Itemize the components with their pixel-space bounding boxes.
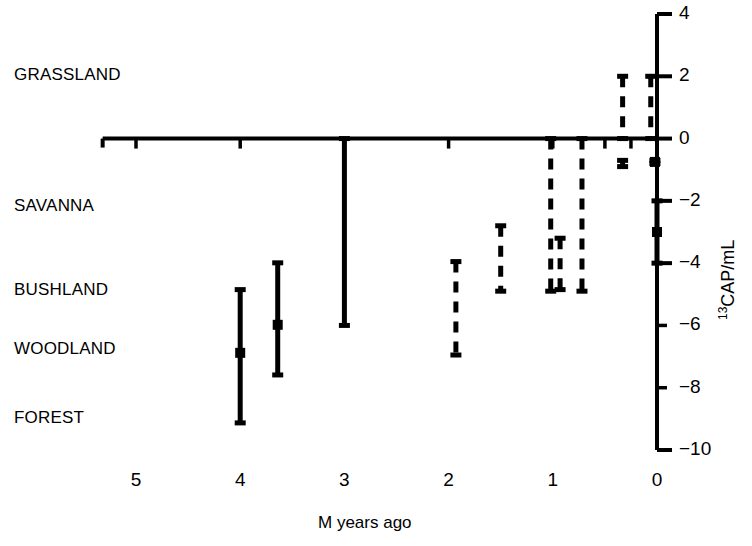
dashed-interval <box>617 160 628 166</box>
y-axis-tick-label: −2 <box>679 189 701 211</box>
solid-interval <box>235 290 246 423</box>
x-axis-tick-label: 1 <box>533 469 573 491</box>
dashed-interval <box>576 139 587 292</box>
y-axis-tick-label: 0 <box>679 127 690 149</box>
y-axis-tick-label: −8 <box>679 376 701 398</box>
solid-interval <box>649 157 660 167</box>
biome-label-forest: FOREST <box>14 408 84 428</box>
y-axis-title-superscript: 13 <box>716 307 730 320</box>
biome-label-savanna: SAVANNA <box>14 196 94 216</box>
axis-layer <box>103 14 672 450</box>
y-axis-tick-label: 4 <box>679 2 690 24</box>
x-axis-tick-label: 2 <box>429 469 469 491</box>
data-point-marker <box>273 320 283 330</box>
y-axis-tick-label: −4 <box>679 251 701 273</box>
x-axis-title: M years ago <box>318 513 412 533</box>
solid-interval <box>339 139 350 326</box>
x-axis-tick-label: 3 <box>324 469 364 491</box>
data-point-marker <box>650 157 660 167</box>
dashed-interval <box>617 76 628 138</box>
solid-interval <box>652 201 663 263</box>
x-axis-tick-label: 0 <box>637 469 677 491</box>
biome-label-bushland: BUSHLAND <box>14 280 108 300</box>
x-axis-tick-label: 4 <box>220 469 260 491</box>
data-point-marker <box>652 227 662 237</box>
data-layer <box>235 76 663 423</box>
dashed-interval <box>495 226 506 291</box>
x-axis-tick-label: 5 <box>116 469 156 491</box>
biome-label-grassland: GRASSLAND <box>14 65 121 85</box>
solid-interval <box>272 263 283 375</box>
dashed-interval <box>555 238 566 289</box>
dashed-interval <box>545 139 556 292</box>
dashed-interval <box>450 262 461 355</box>
biome-label-woodland: WOODLAND <box>14 339 116 359</box>
y-axis-tick-label: −10 <box>679 438 711 460</box>
data-point-marker <box>235 348 245 358</box>
dashed-interval <box>645 76 656 138</box>
y-axis-tick-label: −6 <box>679 313 701 335</box>
y-axis-title-base: CAP/mL <box>718 240 738 307</box>
y-axis-title: 13CAP/mL <box>716 240 739 320</box>
y-axis-tick-label: 2 <box>679 64 690 86</box>
chart-figure: GRASSLAND SAVANNA BUSHLAND WOODLAND FORE… <box>0 0 752 546</box>
